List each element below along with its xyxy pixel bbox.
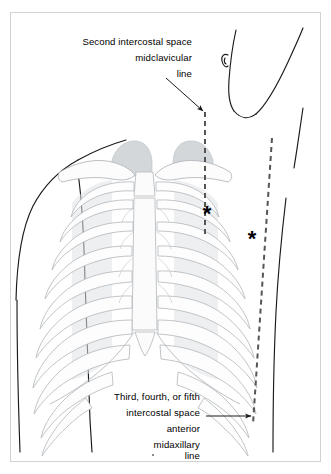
upper-label-line-1: Second intercostal space: [82, 36, 192, 47]
upper-label-line-2: midclavicular: [135, 52, 192, 63]
sternum-body: [132, 198, 157, 330]
lower-label-line-4: midaxillary: [154, 439, 201, 450]
sternum-group: [132, 172, 157, 356]
midclavicular-marker: *: [203, 201, 212, 226]
lower-label-line-1: Third, fourth, or fifth: [114, 391, 200, 402]
anatomy-figure: * * Second intercostal space midclavicul…: [0, 0, 331, 474]
chest-anatomy-illustration: * * Second intercostal space midclavicul…: [0, 0, 331, 474]
lower-label-line-5: line: [185, 450, 200, 461]
lower-label-line-2: intercostal space: [126, 407, 200, 418]
midaxillary-marker: *: [248, 226, 257, 251]
manubrium: [134, 172, 155, 196]
stray-dot-mark: [152, 454, 154, 456]
upper-label-line-3: line: [177, 68, 192, 79]
lower-label-line-3: anterior: [167, 423, 201, 434]
